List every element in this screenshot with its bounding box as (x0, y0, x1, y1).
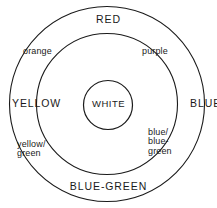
label-white: WHITE (0, 99, 217, 109)
label-red: RED (0, 14, 217, 25)
label-blue-blue-green: blue/ blue- green (148, 128, 172, 156)
color-circle-diagram: RED YELLOW BLUE BLUE-GREEN orange purple… (0, 0, 217, 208)
label-purple: purple (142, 47, 168, 56)
label-yellow-green-line2: green (17, 149, 46, 158)
label-yellow-green: yellow/ green (17, 140, 46, 159)
label-orange: orange (23, 47, 52, 56)
label-blue-green: BLUE-GREEN (0, 181, 217, 192)
label-blue-blue-green-line3: green (148, 147, 172, 156)
